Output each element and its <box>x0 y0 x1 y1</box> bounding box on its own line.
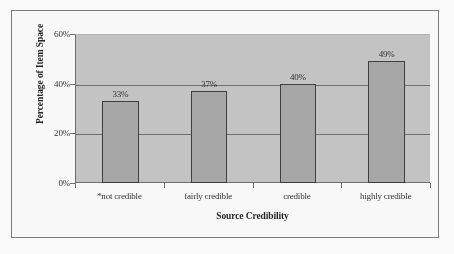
y-axis-tick-labels: 0%20%40%60% <box>32 34 70 183</box>
x-tick-label: highly credible <box>360 191 411 201</box>
bar-value-label: 49% <box>379 49 395 59</box>
bar-value-label: 37% <box>201 79 217 89</box>
y-tick-label-0: 0% <box>58 178 70 188</box>
x-tick-mark <box>430 183 431 188</box>
bar-value-label: 33% <box>112 89 128 99</box>
x-axis-title: Source Credibility <box>75 211 430 221</box>
y-tick-mark-40 <box>70 84 75 85</box>
y-tick-mark-60 <box>70 34 75 35</box>
y-tick-label-60: 60% <box>54 29 70 39</box>
y-tick-mark-20 <box>70 133 75 134</box>
x-tick-mark <box>341 183 342 188</box>
bar-highly-credible[interactable] <box>368 61 404 183</box>
y-tick-label-20: 20% <box>54 128 70 138</box>
x-tick-label: fairly credible <box>184 191 232 201</box>
bar-fairly-credible[interactable] <box>191 91 227 183</box>
bar-credible[interactable] <box>280 84 316 183</box>
x-tick-mark-origin <box>75 183 76 188</box>
x-tick-mark <box>253 183 254 188</box>
bar-value-label: 40% <box>290 72 306 82</box>
y-tick-label-40: 40% <box>54 79 70 89</box>
bar-not-credible[interactable] <box>102 101 138 183</box>
x-tick-mark <box>164 183 165 188</box>
chart-frame: Percentage of Item Space 0%20%40%60% 33%… <box>11 10 439 238</box>
x-tick-label: credible <box>283 191 310 201</box>
x-tick-label: *not credible <box>97 191 142 201</box>
plot-area: 33%37%40%49% <box>75 34 430 183</box>
